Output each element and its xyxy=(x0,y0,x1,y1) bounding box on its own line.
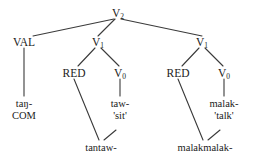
edge-red-left-to-output xyxy=(74,79,99,140)
node-val-label: VAL xyxy=(13,36,35,48)
node-v0-left-subscript: 0 xyxy=(122,72,126,81)
leaf-v1-left-output-text: tantaw- xyxy=(85,142,117,153)
node-v1-right-subscript: 1 xyxy=(204,41,208,50)
edge-v0-left-gloss-to-output xyxy=(104,130,116,140)
leaf-val-morpheme: taŋ- xyxy=(16,98,32,109)
edge-v1-right-to-v0 xyxy=(205,48,223,66)
leaf-val-gloss: COM xyxy=(12,110,36,122)
leaf-v0-right-morpheme: malak- xyxy=(209,98,238,109)
node-v1-left: V1 xyxy=(92,37,104,49)
leaf-v1-right-output-text: malakmalak- xyxy=(178,142,233,153)
leaf-v1-right-output: malakmalak- xyxy=(178,142,233,154)
node-val: VAL xyxy=(13,37,35,48)
node-red-left: RED xyxy=(63,68,86,79)
leaf-v0-left-morpheme: taw- xyxy=(111,98,130,109)
leaf-v0-left: taw- 'sit' xyxy=(111,98,130,122)
leaf-v0-left-gloss: 'sit' xyxy=(111,110,130,122)
edge-v0-right-gloss-to-output xyxy=(208,130,220,140)
leaf-v0-right: malak- 'talk' xyxy=(209,98,238,122)
node-red-right-label: RED xyxy=(167,67,190,79)
node-root: V2 xyxy=(112,8,124,20)
edge-root-to-v1-right xyxy=(121,19,202,36)
edge-red-right-to-output xyxy=(178,79,203,140)
node-v1-left-subscript: 1 xyxy=(100,41,104,50)
tree-edges xyxy=(0,0,255,159)
leaf-v0-right-gloss: 'talk' xyxy=(209,110,238,122)
node-red-left-label: RED xyxy=(63,67,86,79)
node-v1-right: V1 xyxy=(196,37,208,49)
node-red-right: RED xyxy=(167,68,190,79)
edge-root-to-val xyxy=(33,19,114,36)
leaf-val: taŋ- COM xyxy=(12,98,36,122)
syntax-tree-diagram: V2 VAL V1 V1 RED V0 RED V0 taŋ- COM taw-… xyxy=(0,0,255,159)
node-v0-right: V0 xyxy=(218,68,230,80)
node-root-subscript: 2 xyxy=(120,12,124,21)
edge-v1-left-to-v0 xyxy=(101,48,119,66)
node-v0-right-subscript: 0 xyxy=(226,72,230,81)
edge-v1-left-to-red xyxy=(78,48,95,66)
edge-v1-right-to-red xyxy=(182,48,199,66)
node-v0-left: V0 xyxy=(114,68,126,80)
leaf-v1-left-output: tantaw- xyxy=(85,142,117,154)
